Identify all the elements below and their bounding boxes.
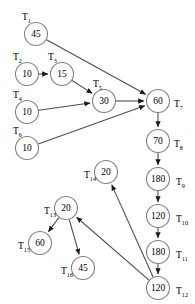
node-t6[interactable]: 10T6 xyxy=(13,126,39,160)
nodes-layer: 45T110T215T310T430T510T660T770T8180T9120… xyxy=(13,12,188,300)
node-label-sub-t4: 4 xyxy=(19,94,22,101)
edge-t13-to-t16 xyxy=(69,220,79,255)
node-label-sub-t9: 9 xyxy=(182,181,185,188)
node-t16[interactable]: 45T16 xyxy=(61,257,95,280)
edge-t3-to-t5 xyxy=(72,80,92,93)
node-label-t6: T6 xyxy=(13,126,22,137)
node-t4[interactable]: 10T4 xyxy=(13,90,39,124)
node-t8[interactable]: 70T8 xyxy=(147,130,183,153)
node-label-t10: T10 xyxy=(176,214,188,225)
node-label-sub-t1: 1 xyxy=(28,16,31,23)
node-t11[interactable]: 180T11 xyxy=(147,241,188,264)
node-label-t11: T11 xyxy=(176,250,188,261)
node-label-sub-t14: 14 xyxy=(90,174,96,181)
node-label-sub-t15: 15 xyxy=(24,245,30,252)
node-value-t15: 60 xyxy=(35,238,45,248)
node-label-sub-t16: 16 xyxy=(67,270,73,277)
node-label-t4: T4 xyxy=(13,90,22,101)
node-value-t14: 20 xyxy=(101,167,111,177)
node-t1[interactable]: 45T1 xyxy=(22,12,48,46)
node-t10[interactable]: 120T10 xyxy=(147,205,189,228)
node-label-sub-t10: 10 xyxy=(182,218,188,225)
node-value-t7: 60 xyxy=(153,96,163,106)
node-label-t1: T1 xyxy=(22,12,31,23)
node-label-sub-t12: 12 xyxy=(182,290,188,297)
node-label-t5: T5 xyxy=(93,79,102,90)
node-t14[interactable]: 20T14 xyxy=(84,161,118,184)
node-value-t3: 15 xyxy=(57,69,67,79)
node-t15[interactable]: 60T15 xyxy=(18,232,52,255)
node-value-t10: 120 xyxy=(151,211,166,221)
node-label-sub-t8: 8 xyxy=(180,143,183,150)
node-label-sub-t13: 13 xyxy=(50,210,56,217)
node-label-sub-t5: 5 xyxy=(99,83,102,90)
diagram-canvas: 45T110T215T310T430T510T660T770T8180T9120… xyxy=(0,0,195,304)
node-label-t3: T3 xyxy=(48,52,57,63)
node-label-t7: T7 xyxy=(174,99,183,110)
node-label-t8: T8 xyxy=(174,139,183,150)
node-label-sub-t2: 2 xyxy=(19,56,22,63)
node-value-t8: 70 xyxy=(153,136,163,146)
node-t3[interactable]: 15T3 xyxy=(48,52,74,86)
node-value-t6: 10 xyxy=(22,143,32,153)
node-value-t2: 10 xyxy=(22,69,32,79)
node-t5[interactable]: 30T5 xyxy=(93,79,116,113)
node-t12[interactable]: 120T12 xyxy=(147,277,189,300)
node-label-t9: T9 xyxy=(176,177,185,188)
node-value-t5: 30 xyxy=(99,96,109,106)
edge-t6-to-t7 xyxy=(38,106,144,144)
node-value-t16: 45 xyxy=(78,263,88,273)
node-label-t2: T2 xyxy=(13,52,22,63)
task-graph: 45T110T215T310T430T510T660T770T8180T9120… xyxy=(0,0,195,304)
node-value-t11: 180 xyxy=(151,247,166,257)
node-label-sub-t6: 6 xyxy=(19,130,22,137)
edge-t13-to-t15 xyxy=(48,218,58,232)
edge-t4-to-t5 xyxy=(39,103,90,110)
node-value-t9: 180 xyxy=(151,174,166,184)
node-label-sub-t3: 3 xyxy=(54,56,57,63)
node-value-t4: 10 xyxy=(22,107,32,117)
node-value-t1: 45 xyxy=(31,29,41,39)
edge-t12-to-t14 xyxy=(112,185,153,277)
node-t9[interactable]: 180T9 xyxy=(147,168,185,191)
node-t13[interactable]: 20T13 xyxy=(44,197,78,220)
node-t7[interactable]: 60T7 xyxy=(147,90,183,113)
node-label-t12: T12 xyxy=(176,286,188,297)
node-value-t12: 120 xyxy=(151,283,166,293)
node-label-sub-t7: 7 xyxy=(180,103,183,110)
node-label-sub-t11: 11 xyxy=(182,254,188,261)
node-t2[interactable]: 10T2 xyxy=(13,52,39,86)
node-value-t13: 20 xyxy=(61,203,71,213)
